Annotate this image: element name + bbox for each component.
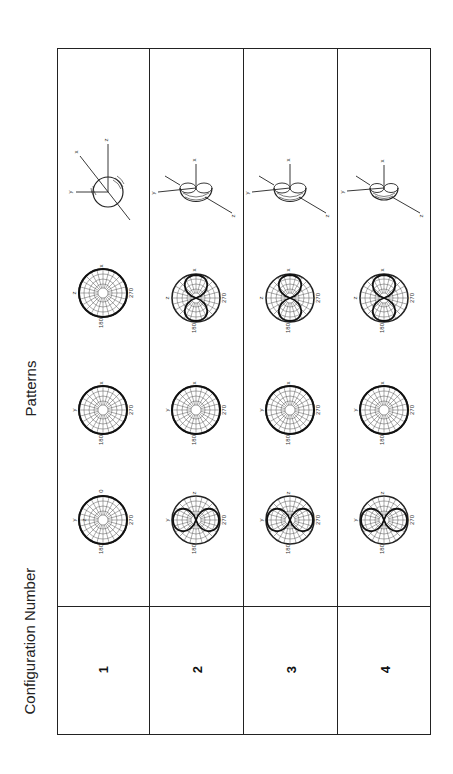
svg-text:y: y [258, 409, 264, 412]
svg-text:y: y [71, 409, 77, 412]
config-4-yz-plot [360, 496, 408, 544]
svg-text:y: y [164, 519, 170, 522]
config-4-xy-plot [360, 386, 408, 434]
config-4-3d-toroid [347, 165, 420, 213]
svg-text:z: z [258, 297, 264, 300]
svg-text:180: 180 [98, 434, 104, 445]
config-1-xz-plot [79, 269, 127, 317]
svg-text:y: y [244, 192, 250, 195]
svg-text:270: 270 [128, 404, 134, 415]
svg-text:y: y [258, 519, 264, 522]
svg-text:z: z [352, 297, 358, 300]
svg-text:y: y [352, 519, 358, 522]
pattern-graphics: 0 z 180 270 y y 180 270 x z 180 270 x z … [0, 0, 453, 774]
svg-text:270: 270 [409, 514, 415, 525]
svg-text:x: x [98, 382, 104, 385]
svg-text:270: 270 [315, 514, 321, 525]
config-2-yz-plot [172, 496, 220, 544]
config-2-xy-plot [172, 386, 220, 434]
svg-text:z: z [324, 215, 330, 218]
svg-text:z: z [103, 139, 109, 142]
svg-text:z: z [230, 215, 236, 218]
svg-text:270: 270 [221, 404, 227, 415]
svg-text:x: x [191, 159, 197, 162]
svg-text:180: 180 [379, 434, 385, 445]
svg-text:x: x [285, 382, 291, 385]
svg-text:180: 180 [285, 434, 291, 445]
svg-text:180: 180 [98, 317, 104, 328]
svg-text:z: z [285, 492, 291, 495]
svg-text:270: 270 [128, 287, 134, 298]
svg-text:270: 270 [221, 292, 227, 303]
svg-text:x: x [73, 151, 79, 154]
svg-text:y: y [352, 409, 358, 412]
svg-text:z: z [418, 215, 424, 218]
svg-text:x: x [191, 382, 197, 385]
config-2-3d-toroid [158, 164, 232, 213]
svg-text:x: x [379, 160, 385, 163]
svg-text:180: 180 [285, 322, 291, 333]
config-3-yz-plot [266, 496, 314, 544]
svg-text:y: y [67, 191, 73, 194]
svg-text:y: y [339, 191, 345, 194]
svg-text:x: x [98, 265, 104, 268]
svg-text:180: 180 [379, 543, 385, 554]
svg-text:x: x [379, 382, 385, 385]
svg-text:180: 180 [285, 543, 291, 554]
svg-text:270: 270 [315, 404, 321, 415]
config-3-3d-toroid [252, 164, 326, 213]
config-2-xz-plot [172, 274, 220, 322]
config-1-xy-plot [79, 386, 127, 434]
svg-text:180: 180 [191, 322, 197, 333]
svg-text:z: z [81, 519, 87, 522]
svg-text:270: 270 [221, 514, 227, 525]
svg-text:x: x [191, 269, 197, 272]
svg-text:270: 270 [409, 404, 415, 415]
svg-text:180: 180 [191, 543, 197, 554]
svg-text:z: z [191, 492, 197, 495]
antenna-pattern-figure: Patterns Configuration Number 1 2 3 4 [0, 0, 453, 774]
svg-text:180: 180 [98, 543, 104, 554]
svg-text:270: 270 [315, 292, 321, 303]
svg-text:270: 270 [409, 292, 415, 303]
config-3-xz-plot [266, 274, 314, 322]
svg-text:x: x [285, 269, 291, 272]
svg-text:0: 0 [98, 489, 104, 493]
svg-text:y: y [164, 409, 170, 412]
svg-text:180: 180 [191, 434, 197, 445]
svg-text:x: x [379, 269, 385, 272]
svg-text:180: 180 [379, 322, 385, 333]
config-4-xz-plot [360, 274, 408, 322]
svg-text:z: z [71, 292, 77, 295]
svg-text:y: y [71, 519, 77, 522]
svg-text:z: z [164, 297, 170, 300]
svg-text:z: z [379, 492, 385, 495]
config-3-xy-plot [266, 386, 314, 434]
svg-text:y: y [150, 192, 156, 195]
config-1-3d-sphere [76, 144, 130, 220]
svg-text:270: 270 [128, 514, 134, 525]
svg-text:x: x [285, 159, 291, 162]
